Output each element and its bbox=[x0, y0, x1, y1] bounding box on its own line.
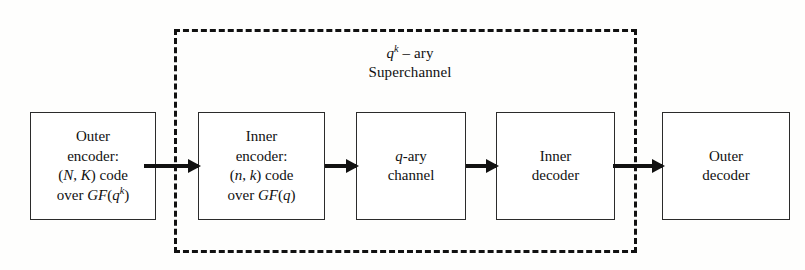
outer-decoder-line1: Outer bbox=[709, 147, 743, 167]
code-suffix: ) code bbox=[91, 167, 128, 183]
arrow-outer-encoder-to-inner-encoder bbox=[144, 164, 198, 168]
block-inner-decoder[interactable]: Inner decoder bbox=[496, 112, 615, 220]
channel-q-symbol: q bbox=[395, 148, 403, 164]
outer-encoder-line1: Outer bbox=[76, 127, 110, 147]
field-q-symbol: q bbox=[112, 187, 120, 203]
superchannel-q-symbol: q bbox=[387, 45, 395, 61]
inner-encoder-line2: encoder: bbox=[236, 147, 288, 167]
channel-ary-suffix: -ary bbox=[403, 148, 427, 164]
over-word: over bbox=[57, 187, 87, 203]
outer-code-n: N bbox=[63, 167, 73, 183]
outer-encoder-line2: encoder: bbox=[67, 147, 119, 167]
arrow-channel-to-inner-decoder bbox=[466, 164, 496, 168]
superchannel-label: qk – ary Superchannel bbox=[280, 44, 540, 82]
inner-code-n: n bbox=[235, 167, 243, 183]
paren-close: ) bbox=[290, 187, 295, 203]
paren-close: ) bbox=[124, 187, 129, 203]
channel-line1: q-ary bbox=[395, 147, 427, 167]
outer-code-k: K bbox=[81, 167, 91, 183]
outer-decoder-line2: decoder bbox=[702, 166, 749, 186]
block-diagram-canvas: qk – ary Superchannel Outer encoder: (N,… bbox=[0, 0, 805, 270]
outer-encoder-line3: (N, K) code bbox=[58, 166, 128, 186]
inner-encoder-line1: Inner bbox=[246, 127, 278, 147]
superchannel-label-line1: qk – ary bbox=[280, 44, 540, 63]
over-word: over bbox=[228, 187, 258, 203]
block-outer-encoder[interactable]: Outer encoder: (N, K) code over GF(qk) bbox=[30, 112, 156, 220]
superchannel-ary-suffix: – ary bbox=[399, 45, 434, 61]
block-outer-decoder[interactable]: Outer decoder bbox=[662, 112, 790, 220]
galois-field-symbol: GF bbox=[87, 187, 107, 203]
comma: , bbox=[73, 167, 81, 183]
superchannel-label-line2: Superchannel bbox=[280, 63, 540, 82]
inner-encoder-line3: (n, k) code bbox=[230, 166, 294, 186]
comma: , bbox=[242, 167, 250, 183]
block-inner-encoder[interactable]: Inner encoder: (n, k) code over GF(q) bbox=[198, 112, 325, 220]
outer-encoder-line4: over GF(qk) bbox=[57, 186, 129, 206]
channel-line2: channel bbox=[388, 166, 435, 186]
block-q-ary-channel[interactable]: q-ary channel bbox=[356, 112, 466, 220]
arrow-inner-decoder-to-outer-decoder bbox=[613, 164, 662, 168]
arrow-inner-encoder-to-channel bbox=[325, 164, 356, 168]
inner-encoder-line4: over GF(q) bbox=[228, 186, 296, 206]
galois-field-symbol: GF bbox=[258, 187, 278, 203]
inner-decoder-line1: Inner bbox=[540, 147, 572, 167]
code-suffix: ) code bbox=[256, 167, 293, 183]
inner-decoder-line2: decoder bbox=[532, 166, 579, 186]
